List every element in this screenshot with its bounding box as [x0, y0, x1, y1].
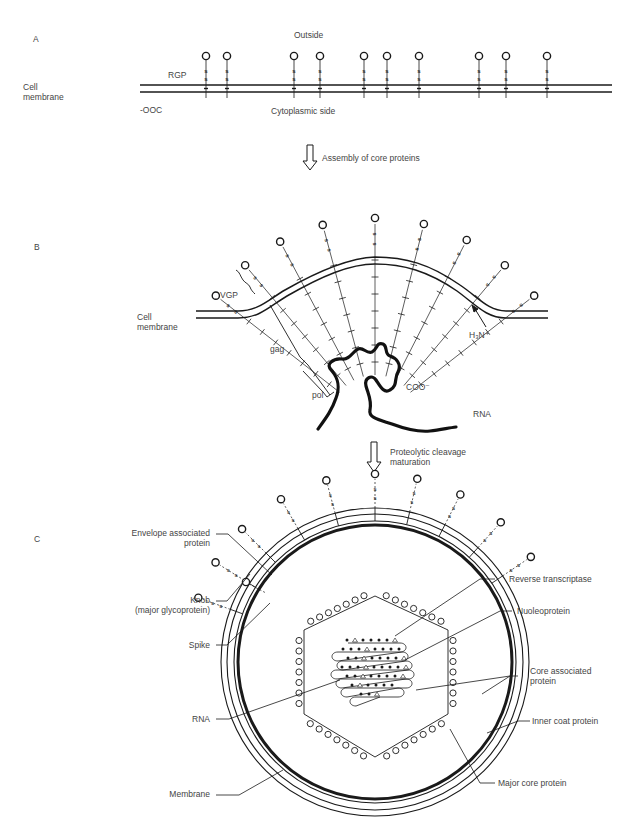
svg-text:s: s: [318, 76, 322, 82]
panel-b-braces: [236, 270, 334, 397]
membrane-label-c: Membrane: [169, 789, 210, 799]
arrow-down-icon: [367, 442, 381, 472]
svg-text:s: s: [417, 76, 421, 82]
panel-a-glycoproteins: ssssssssssssssssssss: [202, 52, 550, 98]
svg-text:s: s: [414, 247, 421, 251]
svg-text:s: s: [456, 252, 463, 257]
cell-membrane-label-b-line2: membrane: [137, 322, 178, 332]
svg-text:s: s: [448, 513, 451, 519]
svg-text:s: s: [227, 567, 230, 573]
svg-text:s: s: [219, 603, 222, 609]
svg-text:s: s: [225, 76, 229, 82]
c-terminus-label-a: -OOC: [140, 105, 162, 115]
panel-b-rna: [318, 344, 456, 432]
nucleoprotein-label: Nuoleoprotein: [517, 606, 570, 616]
assembly-arrow-label: Assembly of core proteins: [322, 153, 420, 163]
svg-text:s: s: [251, 537, 254, 543]
svg-text:s: s: [372, 242, 378, 245]
svg-text:s: s: [259, 282, 266, 288]
panel-c-letter: C: [34, 534, 40, 544]
svg-text:s: s: [225, 68, 229, 74]
cell-membrane-label-a-line1: Cell: [23, 82, 38, 92]
svg-text:s: s: [372, 232, 378, 235]
vgp-label: VGP: [220, 290, 238, 300]
svg-text:s: s: [204, 76, 208, 82]
panel-c-major-core-protein-beads: [296, 593, 456, 759]
n-terminus-label: H₃N⁺: [469, 330, 490, 340]
envelope-associated-protein-label-line2: protein: [184, 538, 210, 548]
panel-a-membrane: [140, 85, 612, 92]
svg-text:s: s: [545, 76, 549, 82]
retrovirus-assembly-diagram: ssssssssssssssssssss ssssssssssssssssss …: [0, 0, 632, 817]
svg-text:s: s: [517, 562, 520, 568]
cell-membrane-label-a-line2: membrane: [23, 92, 64, 102]
svg-text:s: s: [412, 490, 415, 496]
svg-text:s: s: [509, 567, 512, 573]
svg-text:s: s: [373, 495, 376, 501]
svg-text:s: s: [373, 486, 376, 492]
rna-label-c: RNA: [192, 714, 210, 724]
svg-text:s: s: [452, 505, 455, 511]
svg-text:s: s: [417, 237, 424, 241]
cytoplasmic-side-label: Cytoplasmic side: [271, 106, 335, 116]
svg-text:s: s: [477, 68, 481, 74]
svg-text:s: s: [331, 501, 334, 507]
cleavage-arrow-label-line2: maturation: [390, 457, 430, 467]
core-associated-protein-label-line2: protein: [530, 676, 556, 686]
svg-text:s: s: [225, 302, 231, 309]
panel-a-letter: A: [33, 34, 39, 44]
envelope-associated-protein-label-line1: Envelope associated: [132, 528, 210, 538]
svg-text:s: s: [362, 68, 366, 74]
outside-label: Outside: [294, 30, 323, 40]
svg-text:s: s: [324, 238, 331, 243]
rna-label-b: RNA: [473, 409, 491, 419]
svg-text:s: s: [258, 543, 261, 549]
svg-text:s: s: [489, 530, 492, 536]
svg-text:s: s: [483, 537, 486, 543]
svg-text:s: s: [318, 68, 322, 74]
svg-text:s: s: [284, 253, 291, 259]
svg-text:s: s: [211, 600, 214, 606]
svg-text:s: s: [452, 260, 459, 265]
svg-text:s: s: [485, 282, 492, 288]
panel-b-polyproteins: ssssssssssssssssss: [212, 214, 538, 392]
panel-c-nucleoprotein-coil: [331, 638, 414, 706]
knob-label-line1: Knob: [190, 595, 210, 605]
gag-label: gag: [270, 344, 284, 354]
knob-label-line2: (major glycoprotein): [135, 605, 210, 615]
pol-label: pol: [312, 390, 323, 400]
svg-text:s: s: [385, 68, 389, 74]
svg-text:s: s: [292, 76, 296, 82]
svg-text:s: s: [504, 76, 508, 82]
spike-label: Spike: [189, 640, 210, 650]
svg-text:s: s: [410, 499, 413, 505]
c-terminus-label-b: COO⁻: [406, 382, 430, 392]
svg-text:s: s: [252, 274, 259, 280]
svg-text:s: s: [385, 76, 389, 82]
major-core-protein-label: Major core protein: [498, 778, 567, 788]
inner-coat-protein-label: Inner coat protein: [532, 716, 598, 726]
svg-text:s: s: [504, 68, 508, 74]
arrow-down-icon: [303, 145, 317, 170]
svg-text:s: s: [491, 274, 498, 280]
svg-text:s: s: [287, 509, 290, 515]
reverse-transcriptase-label: Reverse transcriptase: [509, 574, 592, 584]
rgp-label: RGP: [168, 70, 186, 80]
svg-text:s: s: [477, 76, 481, 82]
svg-text:s: s: [234, 572, 237, 578]
panel-b-letter: B: [34, 242, 40, 252]
svg-text:s: s: [326, 248, 333, 253]
cleavage-arrow-label-line1: Proteolytic cleavage: [390, 447, 466, 457]
svg-text:s: s: [292, 68, 296, 74]
svg-text:s: s: [417, 68, 421, 74]
svg-text:s: s: [291, 517, 294, 523]
svg-text:s: s: [289, 262, 296, 268]
core-associated-protein-label-line1: Core associated: [530, 666, 591, 676]
svg-text:s: s: [329, 492, 332, 498]
svg-text:s: s: [204, 68, 208, 74]
svg-text:s: s: [545, 68, 549, 74]
svg-text:s: s: [362, 76, 366, 82]
cell-membrane-label-b-line1: Cell: [137, 312, 152, 322]
svg-text:s: s: [519, 302, 525, 309]
